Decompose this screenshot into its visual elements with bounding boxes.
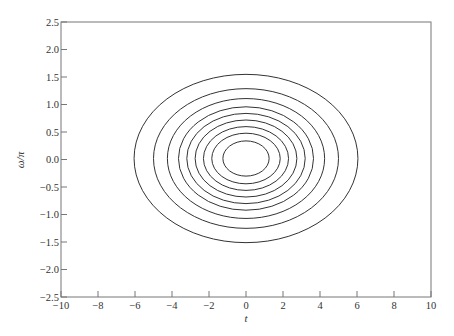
y-axis-ticks: 2.52.01.51.00.50.0−0.5−1.0−1.5−2.0−2.5 [40,17,67,303]
y-tick-label: 1.0 [46,99,59,110]
contour-ellipse [203,127,288,191]
contour-ellipse [223,141,269,176]
plot-frame [61,22,431,297]
contour-ellipse [178,107,313,210]
y-tick-label: 2.5 [46,17,59,28]
contour-lines [134,74,358,242]
x-tick-label: 10 [426,300,437,311]
y-tick-label: 2.0 [46,44,59,55]
x-tick-label: 6 [354,300,359,311]
x-tick-label: 0 [243,300,248,311]
x-tick-label: −2 [203,300,214,311]
x-axis-ticks: −10−8−6−4−20246810 [53,291,436,311]
x-tick-label: 4 [317,300,323,311]
y-tick-label: 0.5 [46,127,59,138]
x-tick-label: −6 [129,300,140,311]
contour-ellipse [167,99,324,219]
x-tick-label: 8 [391,300,396,311]
x-axis-label: t [244,312,248,324]
y-tick-label: 0.0 [46,154,59,165]
x-tick-label: −4 [166,300,178,311]
contour-chart: −10−8−6−4−20246810 2.52.01.51.00.50.0−0.… [0,0,454,336]
y-tick-label: −1.0 [40,209,59,220]
x-tick-label: 2 [280,300,285,311]
contour-ellipse [195,120,297,197]
plot-border [61,22,431,297]
x-tick-label: −8 [92,300,103,311]
y-tick-label: 1.5 [46,72,59,83]
y-tick-label: −2.5 [40,292,59,303]
y-axis-label: ω/π [14,151,26,168]
y-tick-label: −0.5 [40,182,59,193]
contour-ellipse [154,89,339,229]
y-tick-label: −1.5 [40,237,59,248]
y-tick-label: −2.0 [40,264,59,275]
